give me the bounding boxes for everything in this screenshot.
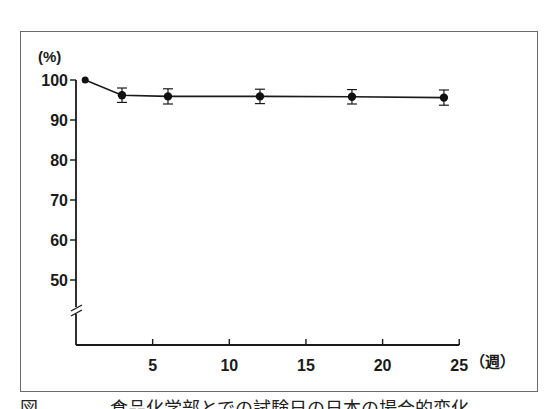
y-tick-label: 70 [50, 192, 68, 209]
data-point [82, 77, 89, 84]
axes: 5060708090100510152025 [41, 72, 468, 374]
x-axis-unit: （週） [470, 353, 515, 370]
data-point [440, 93, 448, 101]
y-axis-unit: (%) [38, 48, 61, 65]
y-tick-label: 80 [50, 152, 68, 169]
y-tick-label: 100 [41, 72, 68, 89]
plot-area [82, 77, 449, 106]
figure-caption: 図 食品化学部とでの試験日の日本の場合的変化 [20, 398, 540, 409]
data-point [118, 91, 126, 99]
data-point [256, 92, 264, 100]
data-point [164, 92, 172, 100]
x-tick-label: 20 [374, 357, 392, 374]
x-tick-label: 15 [297, 357, 315, 374]
x-tick-label: 5 [148, 357, 157, 374]
x-tick-label: 10 [220, 357, 238, 374]
x-tick-label: 25 [450, 357, 468, 374]
line-chart: 5060708090100510152025 (%) （週） [0, 0, 557, 409]
y-tick-label: 50 [50, 272, 68, 289]
data-point [348, 93, 356, 101]
y-tick-label: 90 [50, 112, 68, 129]
y-tick-label: 60 [50, 232, 68, 249]
